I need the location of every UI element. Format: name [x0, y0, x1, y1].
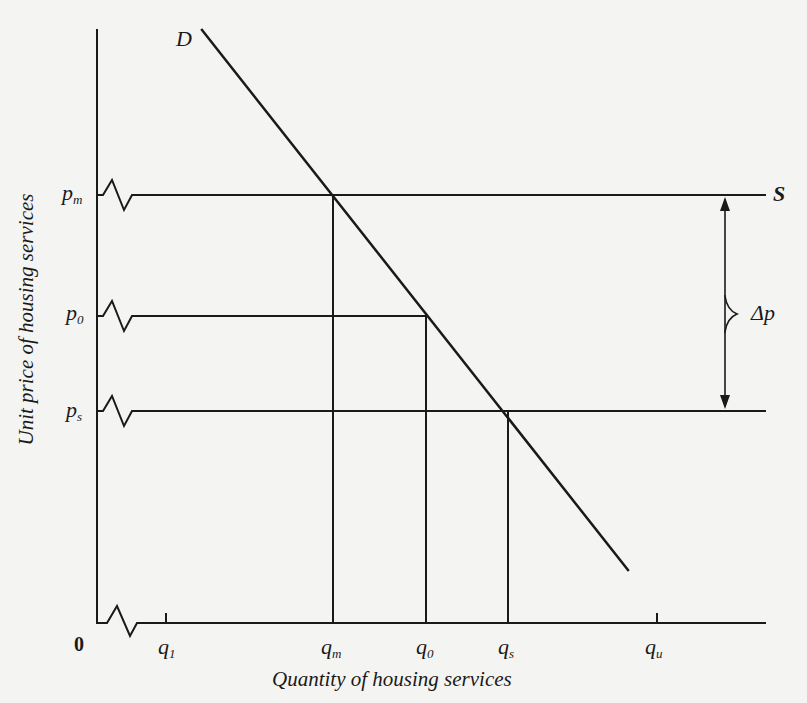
x-tick-qs: qs — [498, 634, 514, 662]
x-tick-q0: q0 — [416, 634, 434, 662]
x-tick-qm: qm — [321, 634, 341, 662]
y-tick-p0: p0 — [66, 300, 84, 328]
y-tick-pm: pm — [62, 180, 82, 208]
arrow-up-icon — [720, 197, 730, 211]
price-line-p0 — [97, 301, 426, 331]
x-axis-title: Quantity of housing services — [272, 667, 512, 692]
delta-p-brace-icon — [725, 296, 737, 332]
demand-label: D — [176, 26, 192, 52]
price-line-ps — [97, 396, 765, 426]
arrow-down-icon — [720, 395, 730, 409]
x-tick-qu: qu — [645, 634, 663, 662]
origin-label: 0 — [74, 633, 84, 656]
x-tick-q1: q1 — [158, 634, 176, 662]
supply-label: S — [773, 181, 785, 207]
demand-curve — [202, 30, 628, 570]
delta-p-label: Δp — [751, 300, 775, 326]
supply-line-pm — [97, 180, 765, 210]
y-tick-ps: ps — [66, 397, 82, 425]
x-axis — [97, 606, 765, 636]
housing-market-diagram — [0, 0, 807, 703]
y-axis-title: Unit price of housing services — [14, 170, 39, 470]
